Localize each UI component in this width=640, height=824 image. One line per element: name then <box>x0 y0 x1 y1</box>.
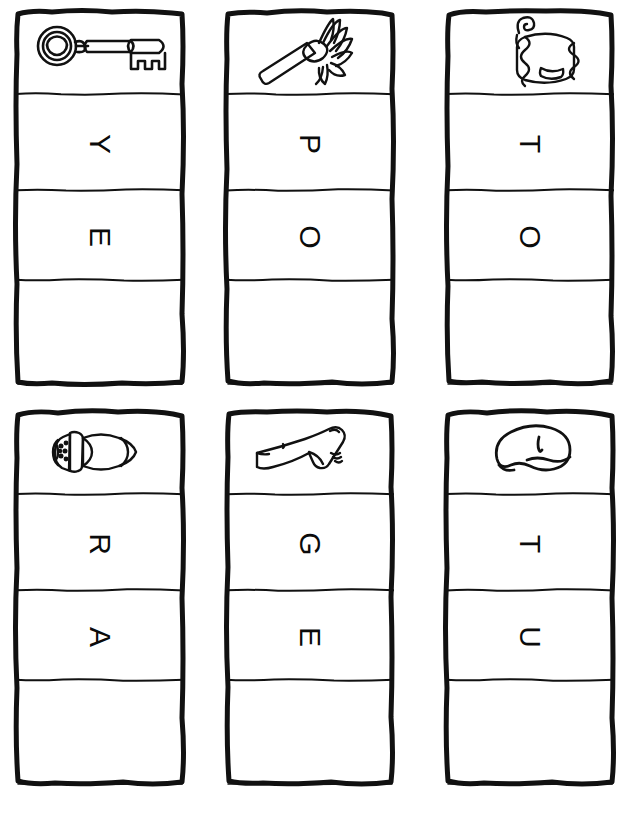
card-letter: T <box>515 535 545 553</box>
card-letter: P <box>295 134 325 154</box>
worksheet-page: Y E <box>0 0 640 824</box>
card-picture-cell <box>16 8 184 96</box>
nut-icon <box>455 413 605 491</box>
card-picture-cell <box>446 408 614 496</box>
card-picture-cell <box>226 8 394 96</box>
card-letter: A <box>85 627 115 647</box>
card-letter-cell-1: G <box>226 496 394 592</box>
picture-letter-card[interactable]: R A <box>16 408 184 786</box>
cell-divider <box>226 382 394 386</box>
card-letter-cell-2: E <box>226 592 394 682</box>
picture-letter-card[interactable]: T U <box>446 408 614 786</box>
card-blank-cell[interactable] <box>226 282 394 386</box>
card-letter: T <box>515 135 545 153</box>
leg-icon <box>235 413 385 491</box>
key-icon <box>25 13 175 91</box>
mop-icon <box>235 13 385 91</box>
card-letter-cell-1: T <box>446 496 614 592</box>
card-letter-cell-1: Y <box>16 96 184 192</box>
cell-divider <box>446 382 614 386</box>
card-letter: E <box>85 227 115 247</box>
pot-icon <box>455 13 605 91</box>
card-letter: O <box>295 225 325 248</box>
card-blank-cell[interactable] <box>226 682 394 786</box>
picture-letter-card[interactable]: T O <box>446 8 614 386</box>
picture-letter-card[interactable]: P O <box>226 8 394 386</box>
card-blank-cell[interactable] <box>446 282 614 386</box>
cell-divider <box>446 782 614 786</box>
card-picture-cell <box>226 408 394 496</box>
card-blank-cell[interactable] <box>16 282 184 386</box>
card-picture-cell <box>16 408 184 496</box>
card-grid: Y E <box>0 0 640 824</box>
card-letter: Y <box>85 134 115 154</box>
card-letter-cell-2: O <box>446 192 614 282</box>
card-letter-cell-2: O <box>226 192 394 282</box>
card-letter: E <box>295 627 325 647</box>
card-letter-cell-2: E <box>16 192 184 282</box>
card-picture-cell <box>446 8 614 96</box>
picture-letter-card[interactable]: Y E <box>16 8 184 386</box>
card-blank-cell[interactable] <box>16 682 184 786</box>
card-letter-cell-1: P <box>226 96 394 192</box>
card-letter-cell-1: R <box>16 496 184 592</box>
card-letter: R <box>85 533 115 555</box>
cell-divider <box>16 782 184 786</box>
picture-letter-card[interactable]: G E <box>226 408 394 786</box>
card-letter: O <box>515 225 545 248</box>
cell-divider <box>226 782 394 786</box>
card-letter-cell-1: T <box>446 96 614 192</box>
cell-divider <box>16 382 184 386</box>
card-letter: G <box>295 532 325 555</box>
card-letter: U <box>515 626 545 648</box>
card-letter-cell-2: A <box>16 592 184 682</box>
card-letter-cell-2: U <box>446 592 614 682</box>
card-blank-cell[interactable] <box>446 682 614 786</box>
jar-icon <box>25 413 175 491</box>
